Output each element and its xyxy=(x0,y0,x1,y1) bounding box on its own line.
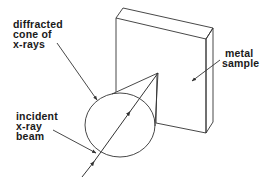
label-diffracted-cone: diffracted cone of x-rays xyxy=(13,19,63,49)
cone-upper-edge xyxy=(112,73,158,94)
beam-line xyxy=(82,73,158,177)
block-front-bottom-edge xyxy=(156,123,206,133)
block-top-face xyxy=(116,8,213,39)
cone-label-leader xyxy=(57,43,97,100)
incident-beam xyxy=(82,73,158,177)
label-line: sample xyxy=(222,58,259,68)
diffracted-cone xyxy=(85,73,158,157)
metal-sample-block xyxy=(116,8,213,133)
block-side-face xyxy=(206,28,213,133)
xray-diffraction-diagram: diffracted cone of x-rays metal sample i… xyxy=(0,0,270,186)
label-metal-sample: metal sample xyxy=(222,48,259,68)
label-incident-beam: incident x-ray beam xyxy=(16,111,58,141)
label-line: x-rays xyxy=(13,39,63,49)
label-line: beam xyxy=(16,131,58,141)
